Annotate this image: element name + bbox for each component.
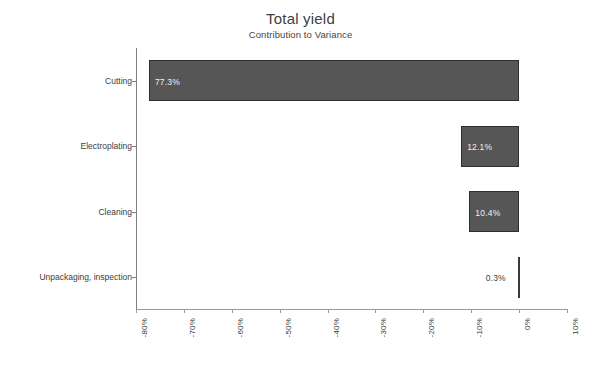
- y-axis-line: [136, 48, 137, 310]
- x-tick-mark: [375, 309, 376, 313]
- y-tick-mark: [132, 277, 136, 278]
- chart-title-block: Total yield Contribution to Variance: [0, 10, 601, 41]
- y-axis-label-2: Electroplating: [4, 141, 132, 151]
- x-axis-label-text: -10%: [475, 318, 484, 337]
- x-axis-line: [136, 309, 567, 310]
- y-tick-mark: [132, 212, 136, 213]
- bar-value-label: 0.3%: [486, 273, 506, 283]
- x-axis-label-text: -20%: [427, 318, 436, 337]
- x-axis-label-text: -30%: [379, 318, 388, 337]
- x-axis-label-text: 0%: [523, 318, 532, 330]
- plot-area: 77.3%12.1%10.4%0.3% -80%-70%-60%-50%-40%…: [136, 48, 567, 310]
- chart-title: Total yield: [0, 10, 601, 28]
- chart-subtitle: Contribution to Variance: [0, 28, 601, 41]
- x-tick-mark: [423, 309, 424, 313]
- x-axis-label-text: -40%: [332, 318, 341, 337]
- x-tick-mark: [232, 309, 233, 313]
- x-axis-label-text: 10%: [571, 318, 580, 335]
- x-axis-label-3: -60%: [236, 318, 245, 337]
- x-axis-label-1: -80%: [140, 318, 149, 337]
- y-axis-label-1: Cutting: [4, 76, 132, 86]
- bar-value-label: 77.3%: [155, 77, 180, 87]
- x-tick-mark: [280, 309, 281, 313]
- x-tick-mark: [136, 309, 137, 313]
- y-axis-label-3: Cleaning: [4, 207, 132, 217]
- x-axis-label-5: -40%: [332, 318, 341, 337]
- x-tick-mark: [567, 309, 568, 313]
- x-axis-label-4: -50%: [284, 318, 293, 337]
- x-tick-mark: [328, 309, 329, 313]
- y-tick-mark: [132, 146, 136, 147]
- bar-cutting: [149, 60, 519, 101]
- x-axis-label-text: -70%: [188, 318, 197, 337]
- bar-value-label: 10.4%: [475, 208, 500, 218]
- x-tick-mark: [471, 309, 472, 313]
- x-axis-label-2: -70%: [188, 318, 197, 337]
- x-axis-label-text: -60%: [236, 318, 245, 337]
- x-axis-label-text: -50%: [284, 318, 293, 337]
- x-axis-label-text: -80%: [140, 318, 149, 337]
- bar-unpackaging-inspection: [518, 257, 520, 298]
- y-tick-mark: [132, 81, 136, 82]
- x-tick-mark: [519, 309, 520, 313]
- y-axis-label-4: Unpackaging, inspection: [4, 272, 132, 282]
- x-axis-label-6: -30%: [379, 318, 388, 337]
- bar-value-label: 12.1%: [467, 142, 492, 152]
- x-tick-mark: [184, 309, 185, 313]
- x-axis-label-8: -10%: [475, 318, 484, 337]
- x-axis-label-7: -20%: [427, 318, 436, 337]
- chart-container: Total yield Contribution to Variance 77.…: [0, 0, 601, 370]
- x-axis-label-9: 0%: [523, 318, 532, 330]
- x-axis-label-10: 10%: [571, 318, 580, 335]
